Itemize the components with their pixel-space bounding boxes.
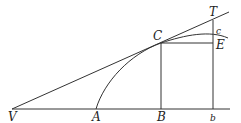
tangent-line	[12, 12, 229, 109]
label-c-upper: C	[153, 29, 162, 43]
curve-arc	[96, 34, 228, 109]
label-c-lower: c	[216, 26, 221, 36]
label-t: T	[209, 5, 218, 19]
label-b-lower: b	[210, 113, 216, 123]
label-b-upper: B	[156, 110, 166, 123]
label-e: E	[215, 38, 225, 52]
label-a: A	[91, 110, 101, 123]
diagram-canvas: V A B b C E T c	[0, 0, 241, 123]
label-v: V	[8, 110, 18, 123]
